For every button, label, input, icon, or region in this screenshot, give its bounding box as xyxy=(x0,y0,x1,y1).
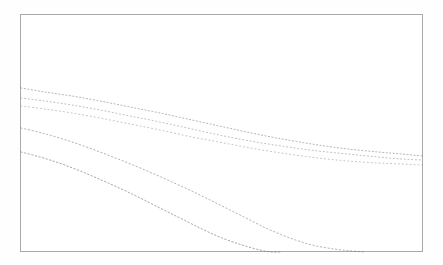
decay-curve-5 xyxy=(21,152,280,252)
decay-curves-group xyxy=(21,88,422,252)
curve-layer xyxy=(0,0,443,265)
figure-container xyxy=(0,0,443,265)
decay-curve-4 xyxy=(21,128,365,252)
decay-curve-1 xyxy=(21,88,422,156)
